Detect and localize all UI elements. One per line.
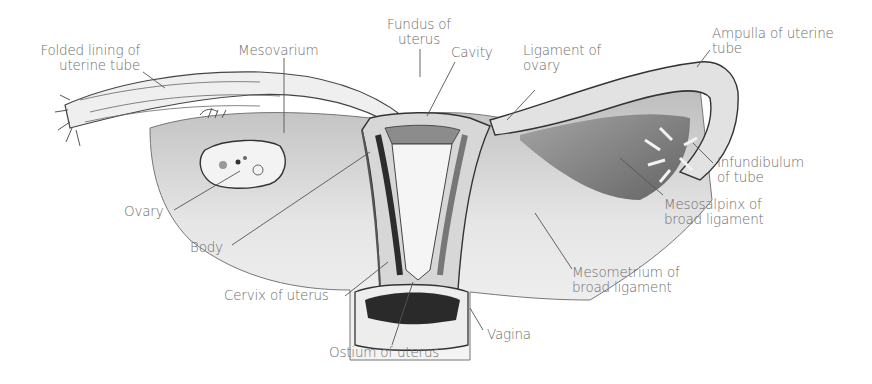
label-vagina: Vagina: [487, 327, 531, 342]
label-line: Ovary: [124, 204, 163, 219]
cervix-vagina-shape: [355, 285, 468, 351]
label-ampulla: Ampulla of uterine tube: [712, 26, 834, 56]
label-line: Ampulla of uterine: [712, 26, 834, 41]
anatomy-diagram: Folded lining of uterine tube Mesovarium…: [0, 0, 872, 384]
label-fundus: Fundus of uterus: [377, 17, 461, 47]
label-mesosalpinx: Mesosalpinx of broad ligament: [664, 197, 764, 227]
label-line: broad ligament: [572, 280, 680, 295]
label-line: uterine tube: [6, 58, 140, 73]
label-line: of tube: [717, 170, 804, 185]
label-body: Body: [190, 240, 223, 255]
label-mesometrium: Mesometrium of broad ligament: [572, 265, 680, 295]
label-line: Mesovarium: [238, 43, 319, 58]
label-line: Mesosalpinx of: [664, 197, 764, 212]
label-line: Body: [190, 240, 223, 255]
label-cavity: Cavity: [451, 45, 493, 60]
label-line: Fundus of: [377, 17, 461, 32]
label-ovary: Ovary: [124, 204, 163, 219]
label-line: ovary: [523, 58, 601, 73]
label-line: tube: [712, 41, 834, 56]
label-line: Cervix of uterus: [224, 288, 329, 303]
label-line: Mesometrium of: [572, 265, 680, 280]
label-line: Folded lining of: [6, 43, 140, 58]
label-ligament-ovary: Ligament of ovary: [523, 43, 601, 73]
label-line: Ostium of uterus: [329, 345, 439, 360]
label-line: Ligament of: [523, 43, 601, 58]
label-line: Cavity: [451, 45, 493, 60]
label-cervix: Cervix of uterus: [224, 288, 329, 303]
label-line: broad ligament: [664, 212, 764, 227]
label-ostium: Ostium of uterus: [329, 345, 439, 360]
label-line: Vagina: [487, 327, 531, 342]
label-mesovarium: Mesovarium: [238, 43, 319, 58]
label-line: uterus: [377, 32, 461, 47]
label-folded-lining: Folded lining of uterine tube: [6, 43, 140, 73]
label-line: Infundibulum: [717, 155, 804, 170]
label-infundibulum: Infundibulum of tube: [717, 155, 804, 185]
